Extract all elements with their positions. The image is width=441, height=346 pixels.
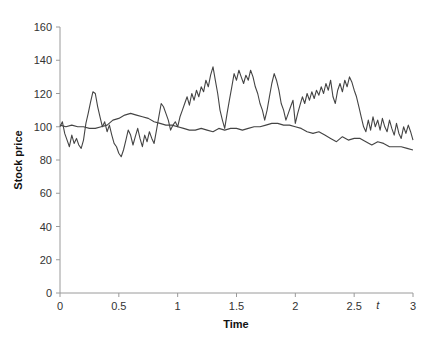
x-tick-label: 2.5 <box>347 300 362 312</box>
y-tick-label: 140 <box>34 54 52 66</box>
y-tick-label: 80 <box>40 154 52 166</box>
stock-price-chart: 020406080100120140160 00.511.522.53 Stoc… <box>0 0 441 346</box>
y-tick-label: 120 <box>34 88 52 100</box>
y-tick-label: 40 <box>40 221 52 233</box>
annotations: t <box>376 299 380 311</box>
series-layer <box>60 67 413 157</box>
y-axis: 020406080100120140160 <box>34 21 60 299</box>
x-axis: 00.511.522.53 <box>57 293 416 312</box>
y-tick-label: 60 <box>40 187 52 199</box>
x-tick-label: 0 <box>57 300 63 312</box>
y-tick-label: 20 <box>40 254 52 266</box>
y-tick-label: 100 <box>34 121 52 133</box>
y-tick-label: 160 <box>34 21 52 33</box>
x-tick-label: 1.5 <box>229 300 244 312</box>
series-line-1 <box>60 67 413 157</box>
y-tick-label: 0 <box>46 287 52 299</box>
y-axis-title: Stock price <box>12 130 24 189</box>
x-tick-label: 1 <box>175 300 181 312</box>
x-tick-label: 3 <box>410 300 416 312</box>
x-tick-label: 0.5 <box>111 300 126 312</box>
x-tick-label: 2 <box>292 300 298 312</box>
series-line-2 <box>60 113 413 150</box>
x-axis-title: Time <box>223 318 248 330</box>
annotation-t: t <box>376 299 380 311</box>
